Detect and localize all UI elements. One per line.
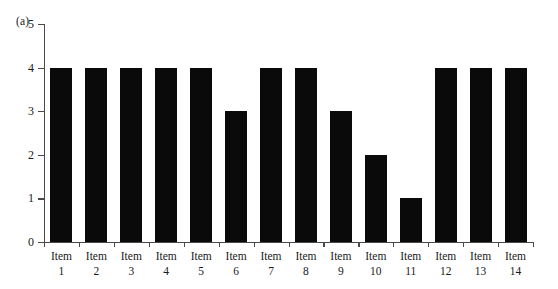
x-axis-label-number: 1 <box>44 264 79 279</box>
x-axis-label: Item6 <box>219 249 254 278</box>
x-axis-label-number: 4 <box>149 264 184 279</box>
x-tick <box>44 242 45 247</box>
x-axis-label: Item5 <box>184 249 219 278</box>
bar <box>50 68 72 242</box>
x-axis-label: Item3 <box>114 249 149 278</box>
x-axis-label-name: Item <box>79 249 114 264</box>
x-axis-label: Item1 <box>44 249 79 278</box>
bar <box>190 68 212 242</box>
x-axis-label-name: Item <box>149 249 184 264</box>
bar <box>330 111 352 242</box>
x-axis-label: Item12 <box>428 249 463 278</box>
x-axis-label-name: Item <box>498 249 533 264</box>
x-axis-label-name: Item <box>289 249 324 264</box>
x-axis-label: Item8 <box>289 249 324 278</box>
bar <box>120 68 142 242</box>
bar <box>225 111 247 242</box>
x-axis-label-number: 7 <box>254 264 289 279</box>
x-axis-label-number: 13 <box>463 264 498 279</box>
x-axis-label: Item13 <box>463 249 498 278</box>
x-tick <box>393 242 394 247</box>
x-axis-label-number: 12 <box>428 264 463 279</box>
bar <box>400 198 422 242</box>
bar <box>505 68 527 242</box>
x-tick <box>463 242 464 247</box>
x-tick <box>289 242 290 247</box>
x-axis-label-number: 6 <box>219 264 254 279</box>
x-axis-label-name: Item <box>219 249 254 264</box>
x-axis-label-name: Item <box>358 249 393 264</box>
x-tick <box>428 242 429 247</box>
plot-area: 012345 Item1Item2Item3Item4Item5Item6Ite… <box>0 0 558 289</box>
x-axis-label-name: Item <box>463 249 498 264</box>
x-tick <box>114 242 115 247</box>
bar <box>470 68 492 242</box>
bar <box>435 68 457 242</box>
x-axis-label-number: 10 <box>358 264 393 279</box>
x-tick <box>79 242 80 247</box>
bar <box>85 68 107 242</box>
x-axis-label-number: 14 <box>498 264 533 279</box>
x-axis-label-name: Item <box>393 249 428 264</box>
x-axis-label: Item7 <box>254 249 289 278</box>
x-tick <box>498 242 499 247</box>
x-axis-label-name: Item <box>44 249 79 264</box>
x-tick <box>323 242 324 247</box>
x-axis-label-name: Item <box>428 249 463 264</box>
x-axis-label-number: 9 <box>323 264 358 279</box>
x-axis-label-number: 2 <box>79 264 114 279</box>
x-axis-label: Item9 <box>323 249 358 278</box>
x-tick <box>219 242 220 247</box>
bar-chart-figure: (a) 012345 Item1Item2Item3Item4Item5Item… <box>0 0 558 289</box>
x-axis-label-name: Item <box>114 249 149 264</box>
x-tick <box>149 242 150 247</box>
x-tick <box>254 242 255 247</box>
x-axis-label: Item2 <box>79 249 114 278</box>
bar <box>155 68 177 242</box>
x-axis-label-number: 8 <box>289 264 324 279</box>
bar <box>295 68 317 242</box>
x-axis-label: Item14 <box>498 249 533 278</box>
bar <box>365 155 387 242</box>
bar <box>260 68 282 242</box>
x-tick <box>533 242 534 247</box>
x-axis-label-number: 3 <box>114 264 149 279</box>
x-axis-label-number: 11 <box>393 264 428 279</box>
x-axis-label: Item11 <box>393 249 428 278</box>
x-axis-label-name: Item <box>254 249 289 264</box>
x-axis-label-name: Item <box>184 249 219 264</box>
x-axis-label-name: Item <box>323 249 358 264</box>
bars-layer <box>0 0 558 242</box>
x-tick <box>184 242 185 247</box>
x-tick <box>358 242 359 247</box>
x-axis-label-number: 5 <box>184 264 219 279</box>
x-axis-label: Item10 <box>358 249 393 278</box>
x-axis-label: Item4 <box>149 249 184 278</box>
